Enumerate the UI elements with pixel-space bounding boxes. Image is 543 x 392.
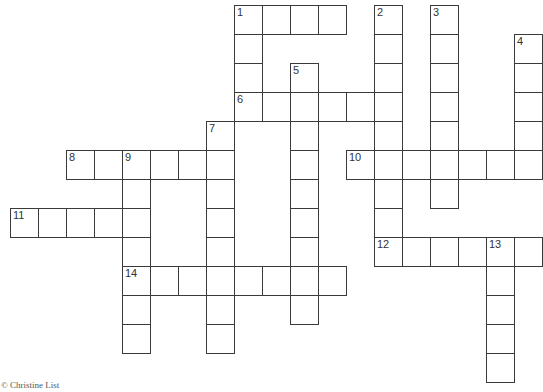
crossword-cell[interactable]	[234, 266, 263, 296]
crossword-cell[interactable]	[458, 237, 487, 267]
crossword-cell[interactable]	[318, 92, 347, 122]
crossword-cell[interactable]	[374, 208, 403, 238]
clue-number: 7	[209, 123, 215, 134]
crossword-cell[interactable]	[290, 295, 319, 325]
copyright-credit: © Christine List	[1, 380, 59, 390]
crossword-cell[interactable]	[430, 179, 459, 209]
crossword-cell[interactable]	[374, 150, 403, 180]
crossword-cell[interactable]: 10	[346, 150, 375, 180]
crossword-cell[interactable]: 1	[234, 5, 263, 35]
crossword-cell[interactable]: 12	[374, 237, 403, 267]
clue-number: 12	[377, 239, 389, 250]
crossword-cell[interactable]	[122, 237, 151, 267]
clue-number: 5	[293, 65, 299, 76]
crossword-cell[interactable]	[290, 179, 319, 209]
crossword-cell[interactable]	[66, 208, 95, 238]
crossword-cell[interactable]	[290, 5, 319, 35]
crossword-cell[interactable]	[122, 208, 151, 238]
crossword-cell[interactable]	[290, 266, 319, 296]
clue-number: 13	[489, 239, 501, 250]
crossword-cell[interactable]: 13	[486, 237, 515, 267]
crossword-cell[interactable]	[318, 266, 347, 296]
clue-number: 10	[349, 152, 361, 163]
crossword-cell[interactable]	[206, 266, 235, 296]
crossword-cell[interactable]	[430, 237, 459, 267]
crossword-cell[interactable]	[94, 150, 123, 180]
crossword-cell[interactable]	[514, 121, 543, 151]
crossword-cell[interactable]	[458, 150, 487, 180]
clue-number: 14	[125, 268, 137, 279]
crossword-cell[interactable]	[206, 295, 235, 325]
crossword-cell[interactable]	[122, 295, 151, 325]
crossword-cell[interactable]: 11	[10, 208, 39, 238]
crossword-cell[interactable]	[150, 150, 179, 180]
crossword-cell[interactable]: 9	[122, 150, 151, 180]
crossword-cell[interactable]	[346, 92, 375, 122]
clue-number: 11	[13, 210, 24, 221]
crossword-cell[interactable]	[206, 208, 235, 238]
crossword-cell[interactable]	[374, 179, 403, 209]
clue-number: 4	[517, 36, 523, 47]
crossword-cell[interactable]	[262, 5, 291, 35]
crossword-cell[interactable]	[374, 121, 403, 151]
crossword-cell[interactable]	[430, 63, 459, 93]
crossword-cell[interactable]	[514, 63, 543, 93]
crossword-cell[interactable]	[514, 150, 543, 180]
crossword-cell[interactable]: 4	[514, 34, 543, 64]
crossword-cell[interactable]	[514, 92, 543, 122]
crossword-cell[interactable]	[234, 63, 263, 93]
crossword-cell[interactable]: 3	[430, 5, 459, 35]
crossword-cell[interactable]	[486, 266, 515, 296]
crossword-cell[interactable]	[178, 150, 207, 180]
crossword-cell[interactable]	[262, 92, 291, 122]
crossword-cell[interactable]	[486, 295, 515, 325]
crossword-cell[interactable]	[206, 179, 235, 209]
crossword-cell[interactable]	[178, 266, 207, 296]
crossword-cell[interactable]	[374, 63, 403, 93]
crossword-cell[interactable]	[486, 324, 515, 354]
crossword-cell[interactable]: 6	[234, 92, 263, 122]
crossword-cell[interactable]	[38, 208, 67, 238]
crossword-cell[interactable]	[430, 92, 459, 122]
crossword-cell[interactable]	[290, 208, 319, 238]
crossword-cell[interactable]: 14	[122, 266, 151, 296]
crossword-cell[interactable]	[374, 92, 403, 122]
crossword-cell[interactable]: 2	[374, 5, 403, 35]
crossword-cell[interactable]	[430, 150, 459, 180]
crossword-cell[interactable]	[290, 150, 319, 180]
crossword-cell[interactable]	[486, 150, 515, 180]
crossword-cell[interactable]	[94, 208, 123, 238]
clue-number: 1	[237, 7, 243, 18]
crossword-cell[interactable]: 7	[206, 121, 235, 151]
crossword-cell[interactable]	[402, 237, 431, 267]
crossword-cell[interactable]	[262, 266, 291, 296]
clue-number: 6	[237, 94, 243, 105]
crossword-cell[interactable]	[486, 353, 515, 383]
crossword-cell[interactable]	[318, 5, 347, 35]
crossword-cell[interactable]	[290, 121, 319, 151]
clue-number: 2	[377, 7, 383, 18]
clue-number: 8	[69, 152, 75, 163]
crossword-cell[interactable]	[206, 150, 235, 180]
crossword-cell[interactable]	[122, 324, 151, 354]
crossword-cell[interactable]	[402, 150, 431, 180]
crossword-cell[interactable]	[430, 121, 459, 151]
crossword-cell[interactable]	[430, 34, 459, 64]
crossword-cell[interactable]	[206, 237, 235, 267]
clue-number: 9	[125, 152, 131, 163]
crossword-cell[interactable]	[290, 237, 319, 267]
clue-number: 3	[433, 7, 439, 18]
crossword-cell[interactable]	[234, 34, 263, 64]
crossword-cell[interactable]: 8	[66, 150, 95, 180]
crossword-cell[interactable]: 5	[290, 63, 319, 93]
crossword-cell[interactable]	[514, 237, 543, 267]
crossword-cell[interactable]	[374, 34, 403, 64]
crossword-cell[interactable]	[206, 324, 235, 354]
crossword-cell[interactable]	[290, 92, 319, 122]
crossword-cell[interactable]	[122, 179, 151, 209]
crossword-cell[interactable]	[150, 266, 179, 296]
